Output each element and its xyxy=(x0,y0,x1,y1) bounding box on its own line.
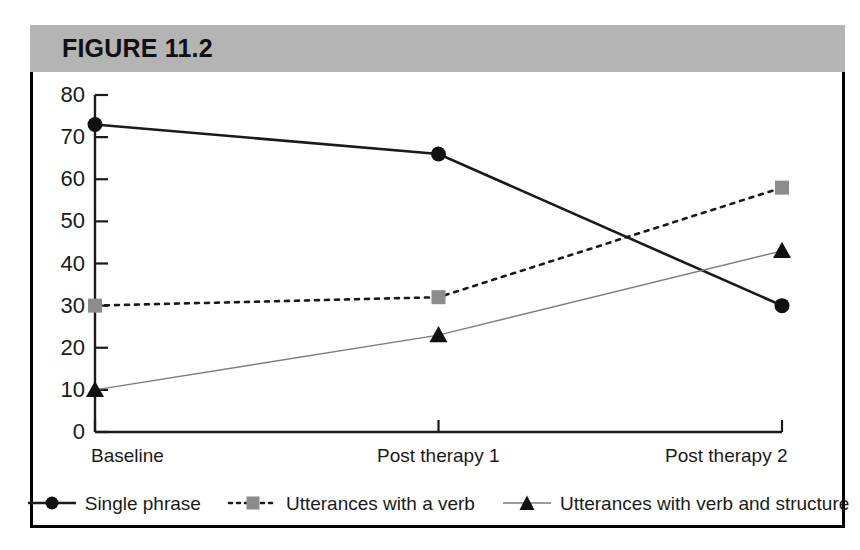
figure-container: FIGURE 11.2 01020304050607080 BaselinePo… xyxy=(30,25,845,528)
chart-plot-area: 01020304050607080 BaselinePost therapy 1… xyxy=(33,75,842,528)
y-tick-label: 0 xyxy=(45,421,85,443)
x-tick-label: Post therapy 2 xyxy=(665,446,788,465)
y-tick-label: 70 xyxy=(45,126,85,148)
y-tick-label: 80 xyxy=(45,84,85,106)
y-tick-label: 30 xyxy=(45,295,85,317)
legend-label: Utterances with verb and structure xyxy=(560,494,849,513)
series-marker xyxy=(432,290,446,304)
legend-item: Utterances with verb and structure xyxy=(501,493,849,513)
y-tick-label: 20 xyxy=(45,337,85,359)
chart-legend: Single phraseUtterances with a verbUtter… xyxy=(33,493,842,513)
series-marker xyxy=(431,146,446,161)
legend-triangle-marker-icon xyxy=(501,493,553,513)
series-line xyxy=(95,251,782,390)
series-marker xyxy=(88,117,103,132)
series-marker xyxy=(775,181,789,195)
x-tick-label: Post therapy 1 xyxy=(377,446,500,465)
x-tick-label: Baseline xyxy=(91,446,164,465)
legend-item: Utterances with a verb xyxy=(227,493,475,513)
series-line xyxy=(95,188,782,306)
series-marker xyxy=(775,298,790,313)
y-tick-label: 60 xyxy=(45,168,85,190)
figure-title: FIGURE 11.2 xyxy=(62,34,213,63)
legend-circle-marker-icon xyxy=(26,493,78,513)
series-marker xyxy=(88,299,102,313)
legend-label: Single phrase xyxy=(85,494,201,513)
legend-item: Single phrase xyxy=(26,493,201,513)
legend-label: Utterances with a verb xyxy=(286,494,475,513)
y-tick-label: 10 xyxy=(45,379,85,401)
y-tick-label: 40 xyxy=(45,253,85,275)
legend-square-marker-icon xyxy=(227,493,279,513)
y-tick-label: 50 xyxy=(45,210,85,232)
series-marker xyxy=(773,242,791,258)
figure-header-band: FIGURE 11.2 xyxy=(30,25,845,72)
